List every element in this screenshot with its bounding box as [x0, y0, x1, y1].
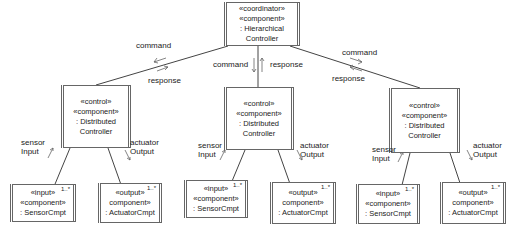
sensor-component-middle[interactable]: 1..* «input» «component» : SensorCmpt	[184, 180, 248, 218]
multiplicity: 1..*	[233, 182, 242, 189]
label-sensor-word: sensor	[198, 141, 222, 150]
label-sensor-word: sensor	[372, 145, 396, 154]
label-output-word: Output	[473, 150, 497, 159]
label-input-word: Input	[372, 154, 390, 163]
label-actuator-word: actuator	[130, 138, 159, 147]
label-actuator-left: actuatorOutput	[130, 138, 159, 156]
component-name-2: Controller	[80, 127, 113, 137]
multiplicity: 1..*	[491, 184, 500, 191]
stereotype-input: «input»	[376, 189, 401, 199]
label-response-middle: response	[270, 60, 303, 69]
stereotype-component: «component»	[73, 107, 118, 117]
component-name-2: Controller	[243, 129, 276, 139]
component-name: : Distributed	[76, 117, 116, 127]
label-response-left: response	[148, 76, 181, 85]
multiplicity: 1..*	[405, 186, 414, 193]
component-name: : Distributed	[404, 121, 444, 131]
component-name: : ActuatorCmpt	[278, 208, 328, 218]
sensor-component-right[interactable]: 1..* «input» «component» : SensorCmpt	[356, 184, 420, 224]
component-name-2: Controller	[246, 34, 279, 44]
label-sensor-word: sensor	[21, 138, 45, 147]
label-sensor-left: sensorInput	[21, 138, 45, 156]
component-diagram: «coordinator» «component» : Hierarchical…	[0, 0, 512, 229]
actuator-component-left[interactable]: 1..* «output» component» : ActuatorCmpt	[98, 183, 162, 223]
stereotype-input: «input»	[204, 184, 229, 194]
distributed-controller-right[interactable]: «control» «component» : Distributed Cont…	[389, 88, 460, 153]
component-name: : ActuatorCmpt	[448, 208, 498, 218]
label-actuator-word: actuator	[300, 141, 329, 150]
component-name: : Hierarchical	[240, 24, 284, 34]
distributed-controller-middle[interactable]: «control» «component» : Distributed Cont…	[224, 87, 294, 150]
actuator-component-middle[interactable]: 1..* «output» component» : ActuatorCmpt	[270, 182, 336, 224]
label-output-word: Output	[130, 147, 154, 156]
label-sensor-middle: sensorInput	[198, 141, 222, 159]
label-response-right: response	[332, 74, 365, 83]
label-actuator-middle: actuatorOutput	[300, 141, 329, 159]
label-sensor-right: sensorInput	[372, 145, 396, 163]
label-actuator-word: actuator	[473, 141, 502, 150]
stereotype-output: «output»	[115, 188, 144, 198]
stereotype-coordinator: «coordinator»	[239, 4, 285, 14]
stereotype-input: «input»	[31, 188, 56, 198]
label-input-word: Input	[21, 147, 39, 156]
sensor-component-left[interactable]: 1..* «input» «component» : SensorCmpt	[10, 184, 76, 222]
label-actuator-right: actuatorOutput	[473, 141, 502, 159]
label-output-word: Output	[300, 150, 324, 159]
stereotype-component: component»	[452, 198, 493, 208]
stereotype-component: «component»	[365, 199, 410, 209]
stereotype-component: «component»	[402, 111, 447, 121]
stereotype-control: «control»	[244, 99, 275, 109]
component-name: : SensorCmpt	[193, 204, 239, 214]
stereotype-component: component»	[282, 198, 323, 208]
label-input-word: Input	[198, 150, 216, 159]
stereotype-component: «component»	[236, 109, 281, 119]
coordinator-component[interactable]: «coordinator» «component» : Hierarchical…	[224, 2, 300, 46]
component-name: : ActuatorCmpt	[105, 208, 155, 218]
stereotype-control: «control»	[409, 101, 440, 111]
stereotype-component: «component»	[193, 194, 238, 204]
multiplicity: 1..*	[321, 184, 330, 191]
multiplicity: 1..*	[147, 185, 156, 192]
component-name: : SensorCmpt	[20, 208, 66, 218]
label-command-right: command	[342, 48, 377, 57]
component-name: : SensorCmpt	[365, 209, 411, 219]
actuator-component-right[interactable]: 1..* «output» component» : ActuatorCmpt	[440, 182, 506, 224]
component-name: : Distributed	[239, 119, 279, 129]
stereotype-control: «control»	[81, 97, 112, 107]
stereotype-component: «component»	[20, 198, 65, 208]
component-name-2: Controller	[408, 131, 441, 141]
stereotype-output: «output»	[458, 188, 487, 198]
label-command-left: command	[136, 41, 171, 50]
stereotype-component: component»	[109, 198, 150, 208]
stereotype-component: «component»	[239, 14, 284, 24]
multiplicity: 1..*	[61, 186, 70, 193]
label-command-middle: command	[213, 60, 248, 69]
stereotype-output: «output»	[288, 188, 317, 198]
distributed-controller-left[interactable]: «control» «component» : Distributed Cont…	[61, 85, 131, 148]
